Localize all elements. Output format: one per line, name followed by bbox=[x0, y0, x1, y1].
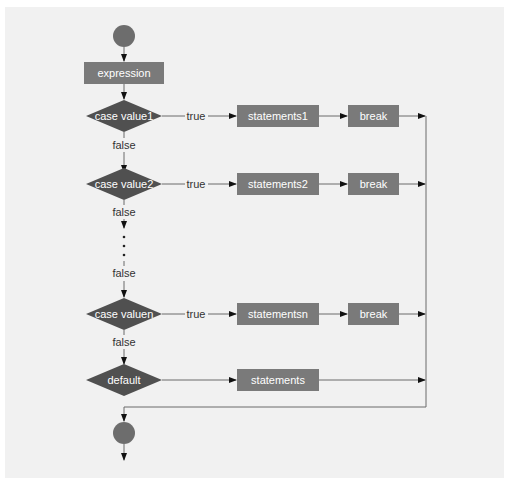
statements2-label: statements2 bbox=[248, 178, 308, 190]
switch-flowchart: expression case value1 true statements1 … bbox=[0, 0, 514, 491]
decision-case-valuen: case valuen bbox=[86, 298, 162, 330]
statements1-label: statements1 bbox=[248, 110, 308, 122]
false-label-n: false bbox=[112, 336, 135, 348]
start-node bbox=[113, 25, 135, 47]
true-label-2: true bbox=[187, 178, 206, 190]
ellipsis-dots bbox=[123, 236, 126, 266]
decision-default: default bbox=[86, 364, 162, 396]
expression-box: expression bbox=[84, 62, 164, 84]
statementsn-label: statementsn bbox=[248, 308, 308, 320]
false-label-2: false bbox=[112, 206, 135, 218]
false-label-ellipsis: false bbox=[112, 267, 135, 279]
breakn-box: break bbox=[348, 303, 399, 325]
decision-case-value2: case value2 bbox=[86, 168, 162, 200]
break2-label: break bbox=[360, 178, 388, 190]
break1-label: break bbox=[360, 110, 388, 122]
case-value2-label: case value2 bbox=[95, 178, 154, 190]
exit-rail bbox=[124, 116, 426, 407]
default-statements-label: statements bbox=[251, 374, 305, 386]
statementsn-box: statementsn bbox=[237, 303, 319, 325]
expression-label: expression bbox=[97, 67, 150, 79]
case-valuen-label: case valuen bbox=[95, 308, 154, 320]
break1-box: break bbox=[348, 105, 399, 127]
decision-case-value1: case value1 bbox=[86, 100, 162, 132]
default-label: default bbox=[107, 374, 140, 386]
breakn-label: break bbox=[360, 308, 388, 320]
case-value1-label: case value1 bbox=[95, 110, 154, 122]
default-statements-box: statements bbox=[237, 369, 319, 391]
false-label-1: false bbox=[112, 139, 135, 151]
true-label-n: true bbox=[187, 308, 206, 320]
break2-box: break bbox=[348, 173, 399, 195]
true-label-1: true bbox=[187, 110, 206, 122]
statements1-box: statements1 bbox=[237, 105, 319, 127]
end-node bbox=[113, 422, 135, 444]
statements2-box: statements2 bbox=[237, 173, 319, 195]
